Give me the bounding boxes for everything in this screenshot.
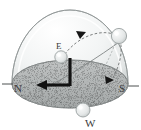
label-west: W — [85, 117, 96, 129]
celestial-sphere-diagram: N S E W — [0, 0, 141, 130]
label-east: E — [56, 41, 62, 51]
label-north: N — [14, 82, 22, 94]
sun-noon-marker — [111, 28, 126, 43]
sun-setting-marker — [76, 103, 90, 117]
sun-rising-marker — [55, 51, 67, 63]
label-south: S — [119, 82, 125, 94]
